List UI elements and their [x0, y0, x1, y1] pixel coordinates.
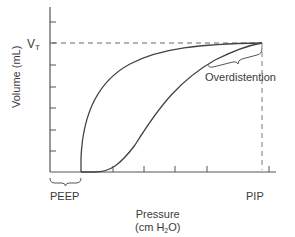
x-axis-label-unit-pre: (cm H: [135, 221, 164, 233]
x-axis-label-line2: (cm H2O): [135, 221, 180, 237]
peep-label: PEEP: [50, 191, 79, 202]
vt-label-main: V: [27, 37, 35, 51]
inspiratory-limb-curve: [81, 43, 262, 172]
x-axis-label-unit-post: O): [168, 221, 180, 233]
expiratory-limb-curve: [81, 43, 262, 172]
x-axis-label: Pressure (cm H2O): [135, 208, 180, 237]
pip-label: PIP: [246, 191, 264, 202]
peep-brace: [50, 178, 81, 186]
vt-label: VT: [27, 38, 40, 52]
y-ticks: [50, 22, 56, 151]
overdistention-label: Overdistention: [205, 72, 276, 83]
x-ticks: [113, 166, 269, 172]
y-axis-label: Volume (mL): [11, 46, 22, 108]
x-axis-label-line1: Pressure: [135, 208, 180, 221]
vt-label-subscript: T: [35, 43, 40, 52]
